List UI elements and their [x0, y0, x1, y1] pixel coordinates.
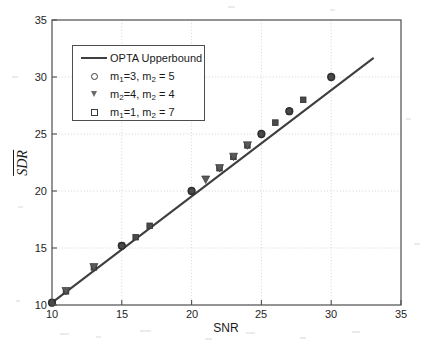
legend-square-icon — [78, 109, 110, 116]
ytick-label: 35 — [31, 15, 47, 26]
ytick-label: 20 — [31, 186, 47, 197]
legend-label: m2=4, m2 = 4 — [110, 89, 175, 100]
plot-svg — [0, 0, 429, 350]
legend-entry-opta: OPTA Upperbound — [73, 49, 204, 67]
legend-label: m1=1, m2 = 7 — [110, 107, 175, 118]
xtick-label: 15 — [116, 309, 128, 320]
ytick-label: 15 — [31, 243, 47, 254]
xtick-label: 30 — [325, 309, 337, 320]
y-axis-label-text: SDR — [13, 150, 31, 176]
legend-label: m1=3, m2 = 5 — [110, 71, 175, 82]
xtick-label: 20 — [186, 309, 198, 320]
xtick-label: 35 — [395, 309, 407, 320]
legend-circle-icon — [78, 73, 110, 80]
legend-line-icon — [78, 57, 110, 59]
x-axis-label: SNR — [213, 321, 238, 335]
figure-canvas: 10 15 20 25 30 35 10 15 20 25 30 35 SNR … — [0, 0, 429, 350]
ytick-label: 10 — [31, 300, 47, 311]
legend-label: OPTA Upperbound — [110, 53, 202, 64]
y-axis-label: SDR — [13, 150, 31, 176]
legend-entry-m2-4-m2-4: m2=4, m2 = 4 — [73, 85, 204, 103]
ytick-label: 25 — [31, 129, 47, 140]
xtick-label: 10 — [46, 309, 58, 320]
legend-triangle-down-icon — [78, 91, 110, 97]
legend-entry-m1-3-m2-5: m1=3, m2 = 5 — [73, 67, 204, 85]
legend-entry-m1-1-m2-7: m1=1, m2 = 7 — [73, 103, 204, 121]
xtick-label: 25 — [255, 309, 267, 320]
legend-box: OPTA Upperbound m1=3, m2 = 5 m2=4, m2 = … — [72, 45, 205, 121]
ytick-label: 30 — [31, 72, 47, 83]
